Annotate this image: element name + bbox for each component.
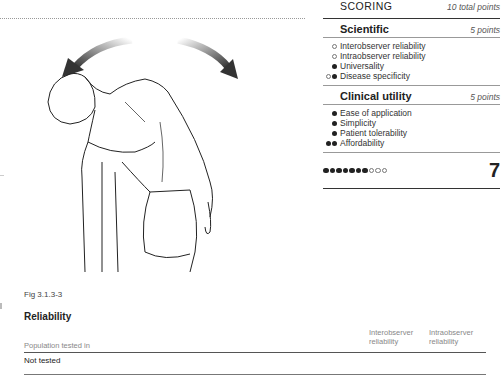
filled-dot-icon	[336, 168, 342, 174]
section-points: 5 points	[470, 92, 500, 102]
scoring-item-label: Affordability	[340, 138, 384, 148]
margin-mark	[0, 303, 2, 309]
scoring-title: SCORING	[340, 0, 393, 12]
reliability-table-header: Population tested in Interobserver relia…	[24, 328, 486, 353]
total-points-label: 10 total points	[447, 2, 500, 12]
section-points: 5 points	[470, 25, 500, 35]
filled-dot-icon	[332, 131, 337, 136]
score-dots	[323, 111, 340, 116]
column-header-population: Population tested in	[24, 341, 90, 350]
filled-dot-icon	[362, 168, 368, 174]
total-score-dots	[323, 168, 387, 174]
filled-dot-icon	[332, 141, 337, 146]
reliability-title: Reliability	[24, 311, 486, 322]
person-figure	[48, 73, 213, 272]
scoring-item: Universality	[323, 61, 500, 71]
empty-dot-icon	[332, 44, 337, 49]
scoring-item: Patient tolerability	[323, 128, 500, 138]
filled-dot-icon	[332, 64, 337, 69]
scoring-item-label: Universality	[340, 61, 384, 71]
empty-dot-icon	[375, 168, 381, 174]
filled-dot-icon	[332, 121, 337, 126]
scoring-item: Affordability	[323, 138, 500, 148]
filled-dot-icon	[332, 111, 337, 116]
score-dots	[323, 131, 340, 136]
margin-mark	[0, 175, 4, 176]
total-score-row: 7	[323, 153, 500, 189]
filled-dot-icon	[330, 168, 336, 174]
population-cell: Not tested	[24, 356, 60, 365]
filled-dot-icon	[332, 74, 337, 79]
table-row: Not tested	[24, 353, 486, 375]
score-dots	[323, 121, 340, 126]
total-score-value: 7	[489, 159, 500, 182]
figure-caption: Fig 3.1.3-3	[24, 290, 62, 299]
section-clinical-utility: Clinical utility 5 points Ease of applic…	[323, 86, 500, 153]
column-header-interobserver: Interobserver reliability	[369, 328, 419, 346]
scoring-item-label: Ease of application	[340, 108, 412, 118]
filled-dot-icon	[343, 168, 349, 174]
filled-dot-icon	[349, 168, 355, 174]
empty-dot-icon	[369, 168, 375, 174]
score-dots	[323, 141, 340, 146]
filled-dot-icon	[326, 141, 331, 146]
scoring-item-label: Simplicity	[340, 118, 376, 128]
scoring-item-label: Interobserver reliability	[340, 41, 426, 51]
section-title: Scientific	[340, 23, 389, 35]
scoring-item-label: Patient tolerability	[340, 128, 407, 138]
scoring-header: SCORING 10 total points	[323, 0, 500, 19]
score-dots	[323, 54, 340, 59]
scoring-item: Intraobserver reliability	[323, 51, 500, 61]
score-dots	[323, 74, 340, 79]
empty-dot-icon	[332, 54, 337, 59]
arrow-right-icon	[178, 40, 238, 79]
filled-dot-icon	[356, 168, 362, 174]
scoring-item: Disease specificity	[323, 71, 500, 81]
section-scientific: Scientific 5 points Interobserver reliab…	[323, 19, 500, 86]
scoring-panel: SCORING 10 total points Scientific 5 poi…	[323, 0, 500, 189]
figure-illustration	[40, 22, 270, 272]
scoring-item-label: Disease specificity	[340, 71, 410, 81]
scoring-item-label: Intraobserver reliability	[340, 51, 426, 61]
score-dots	[323, 44, 340, 49]
empty-dot-icon	[382, 168, 388, 174]
scoring-item: Simplicity	[323, 118, 500, 128]
filled-dot-icon	[323, 168, 329, 174]
scoring-item: Interobserver reliability	[323, 41, 500, 51]
arrow-left-icon	[62, 40, 132, 77]
dotted-divider	[0, 18, 305, 19]
reliability-section: Reliability Population tested in Interob…	[24, 311, 486, 375]
column-header-intraobserver: Intraobserver reliability	[429, 328, 479, 346]
empty-dot-icon	[326, 74, 331, 79]
scoring-item: Ease of application	[323, 108, 500, 118]
section-title: Clinical utility	[340, 90, 412, 102]
score-dots	[323, 64, 340, 69]
